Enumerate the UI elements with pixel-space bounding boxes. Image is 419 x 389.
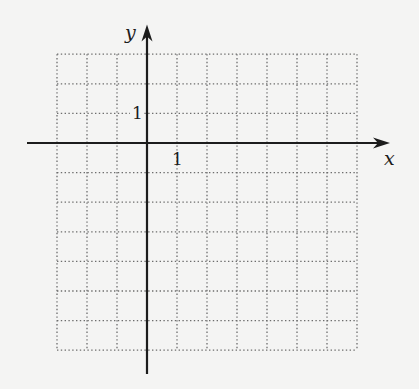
y-axis-label: y <box>124 21 136 43</box>
y-unit-tick-label: 1 <box>132 103 143 123</box>
coordinate-plane: x y 1 1 <box>0 0 419 389</box>
grid <box>57 54 357 350</box>
axes <box>27 25 390 374</box>
x-unit-tick-label: 1 <box>172 149 183 169</box>
x-axis-label: x <box>384 147 395 169</box>
